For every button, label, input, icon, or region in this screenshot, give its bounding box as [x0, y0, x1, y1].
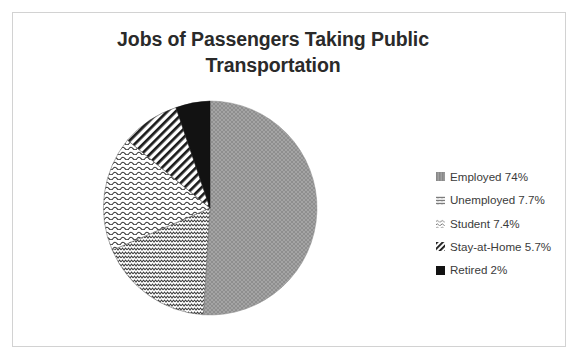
legend-label-retired: Retired 2%: [450, 264, 507, 276]
chart-title-line-2: Transportation: [73, 53, 473, 79]
legend-label-stay-at-home: Stay-at-Home 5.7%: [450, 241, 551, 253]
legend-label-employed: Employed 74%: [450, 171, 528, 183]
legend-swatch-student-icon: [436, 219, 445, 228]
chart-title: Jobs of Passengers Taking Public Transpo…: [73, 27, 473, 78]
legend-item-employed[interactable]: Employed 74%: [436, 165, 576, 188]
pie-slice-employed[interactable]: [203, 101, 317, 315]
legend-swatch-employed-icon: [436, 172, 445, 181]
legend-label-student: Student 7.4%: [450, 218, 520, 230]
legend-item-retired[interactable]: Retired 2%: [436, 259, 576, 282]
legend-item-student[interactable]: Student 7.4%: [436, 212, 576, 235]
chart-legend: Employed 74% Unemployed 7.7% Student 7.4…: [436, 165, 576, 282]
chart-title-line-1: Jobs of Passengers Taking Public: [73, 27, 473, 53]
legend-swatch-retired-icon: [436, 266, 445, 275]
legend-label-unemployed: Unemployed 7.7%: [450, 194, 545, 206]
pie-chart-svg: [97, 95, 323, 321]
legend-swatch-unemployed-icon: [436, 196, 445, 205]
legend-item-unemployed[interactable]: Unemployed 7.7%: [436, 188, 576, 211]
legend-swatch-stay-at-home-icon: [436, 242, 445, 251]
legend-item-stay-at-home[interactable]: Stay-at-Home 5.7%: [436, 235, 576, 258]
pie-chart-plot-area: [97, 95, 323, 321]
chart-frame: Jobs of Passengers Taking Public Transpo…: [12, 12, 566, 347]
